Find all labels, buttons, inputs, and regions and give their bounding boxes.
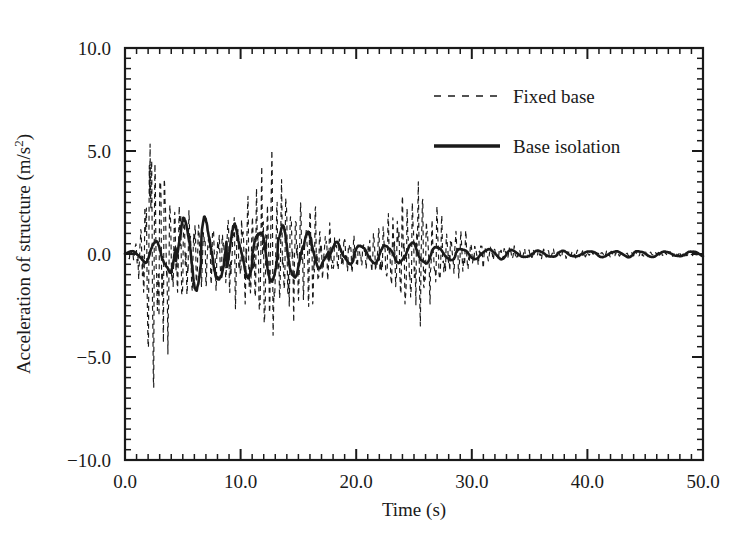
chart-figure: 0.010.020.030.040.050.0 −10.0−5.00.05.01… xyxy=(0,0,748,547)
x-tick-label: 20.0 xyxy=(340,471,373,492)
x-tick-label: 10.0 xyxy=(224,471,257,492)
x-tick-label: 50.0 xyxy=(686,471,719,492)
y-tick-label: −10.0 xyxy=(67,450,111,471)
legend-label-base-isolation: Base isolation xyxy=(513,136,621,157)
x-tick-label: 0.0 xyxy=(113,471,137,492)
y-tick-label: −5.0 xyxy=(77,347,111,368)
y-tick-label: 0.0 xyxy=(87,244,111,265)
acceleration-time-plot: 0.010.020.030.040.050.0 −10.0−5.00.05.01… xyxy=(0,0,748,547)
y-tick-label: 5.0 xyxy=(87,141,111,162)
y-tick-label: 10.0 xyxy=(78,38,111,59)
plot-background xyxy=(0,0,748,547)
x-tick-label: 30.0 xyxy=(455,471,488,492)
legend-label-fixed-base: Fixed base xyxy=(513,86,595,107)
x-axis-title: Time (s) xyxy=(382,499,446,521)
y-axis-title: Acceleration of structure (m/s2) xyxy=(11,134,35,374)
x-tick-label: 40.0 xyxy=(571,471,604,492)
